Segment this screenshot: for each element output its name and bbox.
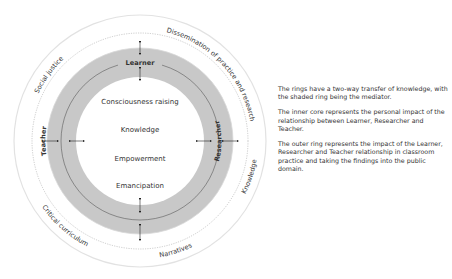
ring-label-learner: Learner: [126, 59, 156, 67]
description-paragraph-inner-core: The inner core represents the personal i…: [278, 108, 450, 133]
description-text: The rings have a two-way transfer of kno…: [278, 85, 450, 180]
description-paragraph-outer-ring: The outer ring represents the impact of …: [278, 140, 450, 174]
core-item-empowerment: Empowerment: [114, 155, 165, 163]
ring-diagram: Consciousness raising Knowledge Empowerm…: [0, 0, 280, 279]
description-paragraph-rings: The rings have a two-way transfer of kno…: [278, 85, 450, 102]
core-item-consciousness-raising: Consciousness raising: [101, 98, 178, 106]
ring-label-teacher: Teacher: [39, 125, 48, 156]
core-item-emancipation: Emancipation: [116, 182, 164, 190]
core-item-knowledge: Knowledge: [121, 126, 159, 134]
